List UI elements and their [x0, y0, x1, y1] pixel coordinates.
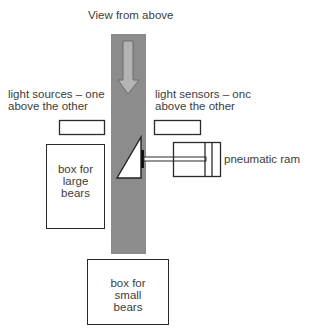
view-title: View from above	[88, 9, 173, 21]
small-bears-box-line1: box for	[88, 277, 168, 289]
small-bears-box-line2: small	[88, 289, 168, 301]
large-bears-box: box for large bears	[46, 144, 105, 229]
light-sensor-rect	[155, 121, 201, 135]
large-bears-box-line3: bears	[47, 187, 104, 199]
large-bears-box-line2: large	[47, 175, 104, 187]
light-source-rect	[60, 121, 105, 135]
small-bears-box-line3: bears	[88, 301, 168, 313]
small-bears-box: box for small bears	[87, 259, 169, 325]
pneumatic-ram-label: pneumatic ram	[224, 153, 300, 165]
piston-rod	[144, 157, 206, 161]
light-sources-label-line1: light sources – one	[8, 88, 105, 100]
large-bears-box-line1: box for	[47, 163, 104, 175]
light-sensors-label-line1: light sensors – onc	[155, 88, 251, 100]
light-sources-label-line2: above the other	[8, 100, 88, 112]
light-sensors-label-line2: above the other	[155, 100, 235, 112]
